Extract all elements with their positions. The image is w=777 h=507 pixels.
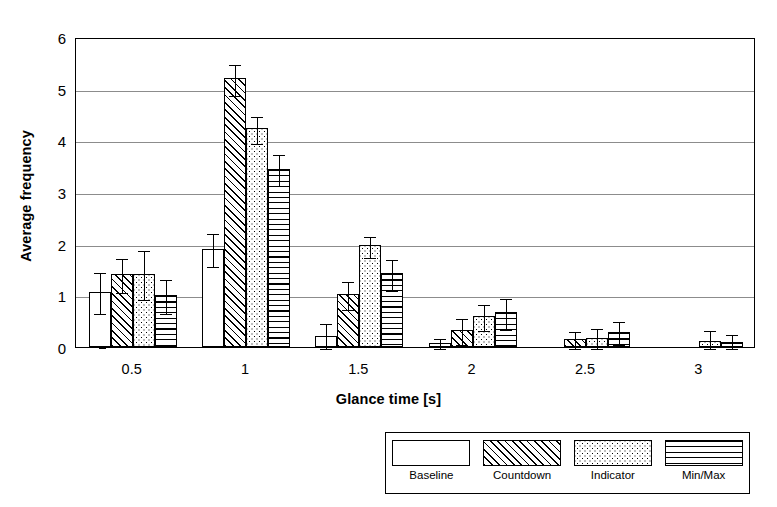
error-bar-stem [370, 237, 371, 258]
error-bar-cap-upper [160, 280, 172, 281]
y-tick-label: 5 [36, 82, 66, 97]
error-bar-stem [619, 322, 620, 346]
error-bar-stem [166, 280, 167, 314]
y-tick-label: 2 [36, 237, 66, 252]
error-bar-cap-lower [320, 349, 332, 350]
error-bar-cap-lower [160, 314, 172, 315]
error-bar-stem [326, 324, 327, 349]
error-bar-cap-upper [273, 155, 285, 156]
legend-item-baseline: Baseline [389, 440, 473, 482]
error-bar-cap-upper [613, 322, 625, 323]
error-bar-stem [597, 329, 598, 349]
error-bar-cap-lower [229, 96, 241, 97]
error-bar-cap-lower [342, 310, 354, 311]
error-bar-stem [575, 332, 576, 349]
legend-swatch-dotted [574, 440, 652, 466]
x-tick-label: 0.5 [97, 362, 167, 377]
error-bar-cap-upper [704, 331, 716, 332]
error-bar-cap-upper [229, 65, 241, 66]
error-bar-cap-upper [726, 335, 738, 336]
error-bar-stem [122, 259, 123, 293]
plot-area [75, 38, 755, 348]
error-bar-cap-upper [500, 299, 512, 300]
legend-label: Indicator [591, 470, 635, 482]
error-bar-cap-upper [591, 329, 603, 330]
error-bar-cap-lower [364, 258, 376, 259]
error-bar-stem [732, 335, 733, 349]
x-axis-title: Glance time [s] [0, 391, 777, 407]
y-tick-label: 6 [36, 31, 66, 46]
bar-min-max-1 [268, 169, 290, 347]
error-bar-cap-upper [456, 319, 468, 320]
error-bar-stem [392, 260, 393, 291]
error-bar-stem [235, 65, 236, 96]
error-bar-stem [144, 251, 145, 300]
y-tick-label: 4 [36, 134, 66, 149]
error-bar-cap-lower [613, 345, 625, 346]
bar-indicator-1.5 [359, 245, 381, 347]
y-axis-tick-labels: 0123456 [28, 0, 66, 507]
error-bar-cap-lower [94, 314, 106, 315]
bars-layer [76, 39, 754, 347]
y-tick-label: 1 [36, 289, 66, 304]
error-bar-cap-upper [116, 259, 128, 260]
error-bar-cap-upper [364, 237, 376, 238]
error-bar-stem [484, 305, 485, 331]
error-bar-cap-upper [386, 260, 398, 261]
error-bar-cap-upper [478, 305, 490, 306]
legend-label: Baseline [409, 470, 453, 482]
error-bar-cap-lower [500, 330, 512, 331]
error-bar-cap-upper [342, 282, 354, 283]
bar-countdown-1 [224, 78, 246, 347]
error-bar-cap-upper [251, 117, 263, 118]
x-tick-label: 2 [437, 362, 507, 377]
chart-legend: BaselineCountdownIndicatorMin/Max [385, 432, 750, 494]
error-bar-cap-lower [726, 349, 738, 350]
error-bar-cap-lower [207, 267, 219, 268]
y-tick-label: 3 [36, 186, 66, 201]
error-bar-cap-lower [704, 349, 716, 350]
error-bar-cap-lower [116, 293, 128, 294]
error-bar-cap-lower [273, 186, 285, 187]
x-tick-label: 1 [210, 362, 280, 377]
bar-indicator-1 [246, 128, 268, 347]
error-bar-cap-lower [251, 144, 263, 145]
error-bar-cap-lower [478, 331, 490, 332]
error-bar-cap-lower [434, 349, 446, 350]
error-bar-stem [462, 319, 463, 346]
legend-label: Min/Max [682, 470, 725, 482]
error-bar-stem [710, 331, 711, 349]
error-bar-cap-lower [138, 300, 150, 301]
error-bar-cap-upper [434, 339, 446, 340]
error-bar-stem [213, 234, 214, 267]
legend-swatch-diagonal-hatch [483, 440, 561, 466]
x-tick-label: 3 [663, 362, 733, 377]
error-bar-cap-lower [591, 349, 603, 350]
error-bar-stem [257, 117, 258, 144]
legend-swatch-horizontal-lines [665, 440, 743, 466]
chart-figure: Average frequency 0123456 0.511.522.53 G… [0, 0, 777, 507]
error-bar-cap-upper [320, 324, 332, 325]
y-tick-mark [99, 348, 106, 349]
error-bar-cap-upper [569, 332, 581, 333]
legend-swatch-plain-white [392, 440, 470, 466]
error-bar-stem [279, 155, 280, 186]
error-bar-cap-upper [138, 251, 150, 252]
legend-item-min-max: Min/Max [662, 440, 746, 482]
error-bar-stem [348, 282, 349, 310]
error-bar-cap-lower [569, 349, 581, 350]
error-bar-cap-lower [456, 345, 468, 346]
error-bar-cap-upper [207, 234, 219, 235]
error-bar-cap-lower [386, 291, 398, 292]
error-bar-cap-upper [94, 273, 106, 274]
error-bar-stem [440, 339, 441, 349]
x-tick-label: 2.5 [550, 362, 620, 377]
x-tick-label: 1.5 [323, 362, 393, 377]
legend-item-countdown: Countdown [480, 440, 564, 482]
legend-item-indicator: Indicator [571, 440, 655, 482]
y-tick-label: 0 [36, 341, 66, 356]
legend-label: Countdown [493, 470, 551, 482]
error-bar-stem [506, 299, 507, 330]
error-bar-stem [100, 273, 101, 314]
